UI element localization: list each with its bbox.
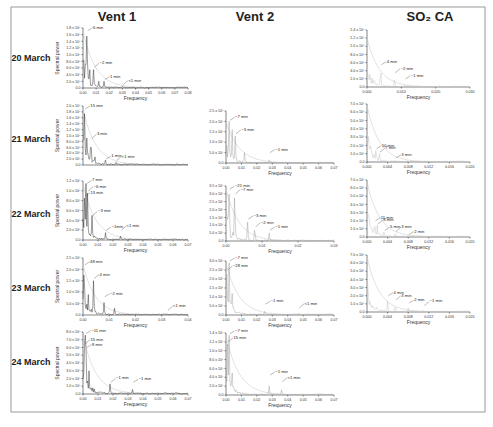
y-tick-label: 1.0 x 10⁶ — [209, 349, 224, 353]
annotation-label: ~1 min — [430, 298, 443, 303]
annotation-label: ~1 min — [116, 375, 129, 380]
y-tick-label: 3.0 x 10⁶ — [209, 259, 224, 263]
panel-vent-2-21-march: 0.05.0 x 10⁵1.0 x 10⁶1.5 x 10⁶2.0 x 10⁶2… — [209, 109, 337, 176]
y-tick-label: 1.0 x 10⁶ — [350, 152, 365, 156]
y-tick-label: 2.0 x 10⁶ — [350, 219, 365, 223]
y-tick-label: 1.0 x 10⁶ — [350, 227, 365, 231]
y-tick-label: 7.0 x 10⁶ — [350, 102, 365, 106]
annotation-label: ~1 min — [275, 369, 288, 374]
annotation-label: 2 min — [414, 297, 425, 302]
x-tick-label: 0.05 — [300, 318, 307, 322]
y-tick-label: 8.0 x 10⁵ — [66, 140, 81, 144]
annotation-label: <1 min — [305, 301, 318, 306]
annotation-arrow — [270, 150, 275, 153]
y-tick-label: 0.0 — [219, 313, 224, 317]
x-axis-label: Frequency — [407, 169, 431, 175]
x-axis-label: Frequency — [268, 170, 292, 176]
y-tick-label: 2.0 x 10⁶ — [66, 104, 81, 108]
y-tick-label: 2.5 x 10⁶ — [209, 200, 224, 204]
y-tick-label: 1.0 x 10⁶ — [66, 53, 81, 57]
annotation-label: 8 min — [383, 217, 394, 222]
x-tick-label: 0.01 — [238, 166, 245, 170]
y-tick-label: 2.0 x 10⁵ — [350, 77, 365, 81]
y-axis-label: Spectral power — [54, 346, 60, 380]
panel-vent-1-22-march: 0.02.0 x 10⁵4.0 x 10⁵6.0 x 10⁵8.0 x 10⁵1… — [54, 177, 192, 253]
y-tick-label: 4.0 x 10⁶ — [350, 203, 365, 207]
annotation-arrow — [106, 227, 111, 230]
column-title-so2-ca: SO₂ CA — [407, 9, 455, 24]
y-tick-label: 2.0 x 10⁵ — [66, 377, 81, 381]
annotation-arrow — [395, 69, 400, 73]
annotation-arrow — [168, 306, 173, 310]
annotation-label: <1 min — [127, 223, 140, 228]
x-tick-label: 0.020 — [431, 90, 440, 94]
y-axis-label: Spectral power — [54, 269, 60, 303]
panel-vent-2-22-march: 0.05.0 x 10⁵1.0 x 10⁶1.5 x 10⁶2.0 x 10⁶2… — [209, 183, 337, 254]
smoothed-spectrum-line — [367, 257, 470, 312]
annotation-label: ~1 min — [411, 73, 424, 78]
annotation-label: 3 min — [401, 293, 412, 298]
x-tick-label: 0.02 — [295, 244, 302, 248]
y-tick-label: 4.0 x 10⁶ — [350, 127, 365, 131]
y-tick-label: 6.0 x 10⁵ — [66, 66, 81, 70]
annotation-arrow — [388, 293, 393, 296]
annotation-label: 3 min — [97, 131, 108, 136]
axes — [226, 186, 334, 241]
annotation-label: 3 min — [401, 152, 412, 157]
x-tick-label: 0.01 — [238, 398, 245, 402]
y-tick-label: 2.0 x 10⁶ — [209, 208, 224, 212]
y-tick-label: 1.8 x 10⁶ — [66, 26, 81, 30]
x-tick-label: 0.000 — [363, 165, 372, 169]
y-tick-label: 5.0 x 10⁵ — [209, 151, 224, 155]
annotation-label: ~2 min — [110, 291, 123, 296]
y-tick-label: 0.0 — [76, 392, 81, 396]
y-tick-label: 1.5 x 10⁶ — [66, 279, 81, 283]
x-tick-label: 0.000 — [363, 240, 372, 244]
annotation-label: 4 min — [100, 272, 111, 277]
annotation-label: 15 min — [90, 103, 103, 108]
y-tick-label: 2.0 x 10⁶ — [350, 294, 365, 298]
y-tick-label: 1.8 x 10⁶ — [66, 110, 81, 114]
annotation-arrow — [406, 76, 411, 79]
panel-so-ca-21-march: 0.01.0 x 10⁶2.0 x 10⁶3.0 x 10⁶4.0 x 10⁶5… — [350, 102, 474, 175]
spectrum-line — [367, 38, 470, 87]
annotation-label: <1 min — [128, 78, 141, 83]
annotation-label: 13 min — [91, 190, 104, 195]
column-title-vent-1: Vent 1 — [98, 9, 136, 24]
x-axis-label: Frequency — [407, 94, 431, 100]
annotation-arrow — [270, 227, 275, 230]
x-tick-label: 0.06 — [315, 166, 322, 170]
y-axis-label: Spectral power — [54, 193, 60, 227]
y-tick-label: 6.0 x 10⁵ — [66, 146, 81, 150]
annotation-arrow — [230, 258, 235, 261]
annotation-arrow — [235, 190, 240, 194]
x-tick-label: 0.016 — [445, 240, 454, 244]
x-tick-label: 0.06 — [170, 397, 177, 401]
x-tick-label: 0.00 — [80, 397, 87, 401]
spectrum-line — [83, 114, 188, 165]
annotation-label: ~28 min — [233, 263, 249, 268]
y-tick-label: 5.0 x 10⁵ — [209, 304, 224, 308]
y-tick-label: 0.0 — [76, 313, 81, 317]
y-tick-label: 6.0 x 10⁶ — [350, 261, 365, 265]
annotation-arrow — [396, 296, 401, 300]
y-tick-label: 7.0 x 10⁵ — [66, 338, 81, 342]
annotation-label: ~3 min — [241, 127, 254, 132]
axes — [367, 255, 470, 312]
y-tick-label: 6.0 x 10⁵ — [350, 61, 365, 65]
x-tick-label: 0.004 — [383, 165, 392, 169]
y-tick-label: 1.5 x 10⁶ — [209, 130, 224, 134]
y-tick-label: 5.0 x 10⁵ — [66, 302, 81, 306]
annotation-arrow — [376, 218, 381, 221]
x-tick-label: 0.07 — [331, 166, 338, 170]
annotation-label: <1 min — [173, 303, 186, 308]
y-tick-label: 2.0 x 10⁶ — [350, 144, 365, 148]
smoothed-spectrum-line — [226, 335, 334, 395]
x-tick-label: 0.004 — [383, 240, 392, 244]
x-tick-label: 0.02 — [253, 318, 260, 322]
y-tick-label: 4.0 x 10⁵ — [209, 375, 224, 379]
x-tick-label: 0.06 — [170, 243, 177, 247]
x-tick-label: 0.00 — [223, 166, 230, 170]
x-tick-label: 0.02 — [110, 397, 117, 401]
axes — [367, 104, 470, 162]
